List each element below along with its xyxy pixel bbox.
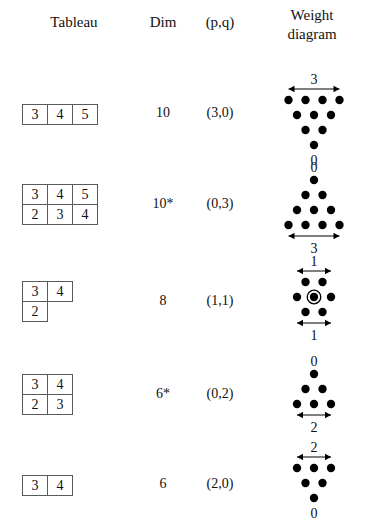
weight-bottom-label: 2	[258, 421, 370, 435]
weight-dot	[335, 96, 343, 104]
weight-diagram: 03	[258, 158, 370, 252]
weight-diagram: 02	[258, 352, 370, 438]
weight-dot	[301, 385, 309, 393]
representation-row: 346(2,0)20	[0, 438, 374, 532]
weight-dot	[293, 293, 301, 301]
weight-top-label: 0	[258, 161, 370, 175]
weight-dot	[301, 221, 309, 229]
weight-dot	[301, 278, 309, 286]
tableau-cell: 2	[22, 301, 48, 322]
tableau-row: 34	[22, 281, 72, 301]
weight-dot	[293, 400, 301, 408]
pq-label: (0,2)	[196, 386, 244, 402]
tableau-row: 34	[22, 475, 72, 495]
weight-top-label: 3	[258, 73, 370, 87]
pq-label: (1,1)	[196, 293, 244, 309]
weight-dot	[318, 278, 326, 286]
dimension-value: 6*	[140, 386, 186, 402]
weight-dot	[310, 176, 318, 184]
tableau-row: 34	[22, 374, 72, 394]
tableau-cell: 3	[22, 374, 48, 395]
weight-dot	[284, 96, 292, 104]
weight-dot	[310, 111, 318, 119]
tableau-cell: 4	[47, 374, 73, 395]
weight-dot	[318, 308, 326, 316]
tableau-cell: 5	[72, 104, 98, 125]
representation-row: 3428(1,1)11	[0, 252, 374, 352]
weight-top-label: 0	[258, 355, 370, 369]
young-tableau: 345234	[22, 184, 97, 224]
tableau-row: 234	[22, 204, 97, 224]
weight-diagram: 11	[258, 252, 370, 352]
column-header-pq: (p,q)	[196, 14, 244, 31]
weight-diagram: 20	[258, 438, 370, 532]
weight-dot	[318, 191, 326, 199]
weight-dot	[335, 221, 343, 229]
weight-bottom-label: 1	[258, 329, 370, 343]
tableau-row: 2	[22, 301, 72, 321]
dimension-value: 10*	[140, 196, 186, 212]
tableau-cell: 4	[47, 184, 73, 205]
young-tableau: 34	[22, 475, 72, 495]
tableau-cell: 3	[22, 184, 48, 205]
column-header-weight-line1: Weight	[258, 6, 366, 25]
weight-bottom-label: 0	[258, 507, 370, 521]
pq-label: (2,0)	[196, 476, 244, 492]
column-header-dim: Dim	[140, 14, 186, 31]
tableau-cell: 3	[22, 104, 48, 125]
weight-dot	[310, 370, 318, 378]
dimension-value: 10	[140, 105, 186, 121]
tableau-cell: 2	[22, 394, 48, 415]
dimension-value: 8	[140, 293, 186, 309]
young-tableau: 342	[22, 281, 72, 321]
tableau-cell: 4	[72, 204, 98, 225]
representation-row: 34510(3,0)30	[0, 70, 374, 158]
tableau-row: 345	[22, 184, 97, 204]
weight-dot	[293, 111, 301, 119]
column-header-weight-line2: diagram	[258, 25, 366, 44]
tableau-cell: 3	[22, 281, 48, 302]
weight-dot	[327, 293, 335, 301]
weight-dot	[284, 221, 292, 229]
column-header-weight-diagram: Weight diagram	[258, 6, 366, 44]
weight-dot	[318, 221, 326, 229]
weight-dot	[327, 111, 335, 119]
weight-dot	[318, 479, 326, 487]
weight-dot	[327, 206, 335, 214]
tableau-cell: 3	[47, 394, 73, 415]
weight-dot	[310, 400, 318, 408]
tableau-cell: 4	[47, 475, 73, 496]
weight-dot	[301, 126, 309, 134]
dimension-value: 6	[140, 476, 186, 492]
weight-bottom-arrow	[289, 233, 340, 239]
weight-dot	[301, 96, 309, 104]
tableau-row: 23	[22, 394, 72, 414]
representation-row: 34523410*(0,3)03	[0, 158, 374, 252]
weight-dot	[301, 191, 309, 199]
weight-dot	[293, 464, 301, 472]
tableau-cell: 4	[47, 104, 73, 125]
tableau-row: 345	[22, 104, 97, 124]
representation-row: 34236*(0,2)02	[0, 352, 374, 438]
weight-diagram: 30	[258, 70, 370, 158]
weight-dot	[310, 141, 318, 149]
weight-dot	[301, 479, 309, 487]
column-header-tableau: Tableau	[20, 14, 128, 31]
pq-label: (3,0)	[196, 105, 244, 121]
table-header: Tableau Dim (p,q) Weight diagram	[0, 0, 374, 62]
weight-dot	[310, 464, 318, 472]
weight-bottom-arrow	[297, 320, 331, 326]
weight-dot	[318, 385, 326, 393]
weight-top-label: 2	[258, 441, 370, 455]
tableau-cell: 3	[22, 475, 48, 496]
tableau-cell: 3	[47, 204, 73, 225]
weight-dot	[318, 96, 326, 104]
weight-dot	[327, 464, 335, 472]
weight-dot	[310, 494, 318, 502]
young-tableau: 3423	[22, 374, 72, 414]
young-tableau: 345	[22, 104, 97, 124]
weight-dot	[301, 308, 309, 316]
weight-top-label: 1	[258, 255, 370, 269]
weight-dot	[310, 293, 318, 301]
tableau-cell: 4	[47, 281, 73, 302]
